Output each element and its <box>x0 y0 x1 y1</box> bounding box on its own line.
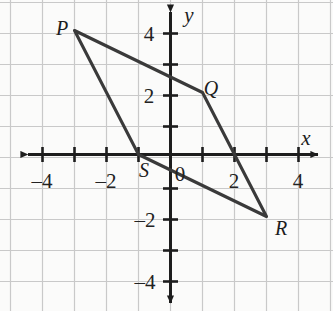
origin-label: 0 <box>175 162 186 187</box>
vertex-label-r: R <box>275 217 287 240</box>
y-tick-label-4: 4 <box>144 22 155 47</box>
coordinate-plane-figure: –4 –2 2 4 4 2 –2 –4 0 x y P Q R S <box>0 0 333 311</box>
x-axis <box>28 147 318 162</box>
y-tick-label-neg2: –2 <box>135 208 156 233</box>
x-tick-label-neg2: –2 <box>96 169 117 194</box>
vertex-label-s: S <box>139 159 149 182</box>
y-tick-label-neg4: –4 <box>135 270 156 295</box>
coordinate-plane-svg <box>0 0 333 311</box>
x-axis-label: x <box>301 126 310 151</box>
vertex-label-q: Q <box>204 77 218 100</box>
x-tick-label-2: 2 <box>229 169 240 194</box>
y-axis-label: y <box>184 3 193 28</box>
x-tick-label-neg4: –4 <box>32 169 53 194</box>
y-tick-label-2: 2 <box>144 84 155 109</box>
x-tick-label-4: 4 <box>293 169 304 194</box>
vertex-label-p: P <box>56 17 68 40</box>
